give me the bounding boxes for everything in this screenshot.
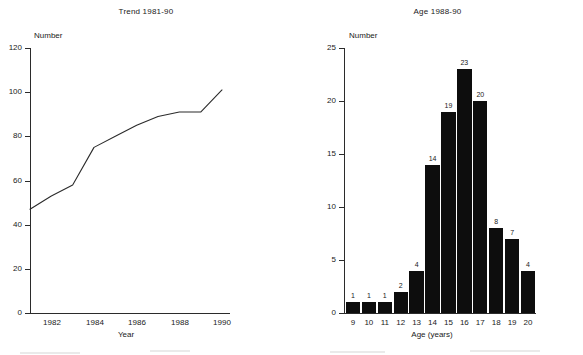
bar-age-15[interactable]	[441, 112, 455, 313]
bar-age-13[interactable]	[409, 271, 423, 313]
age-xtick-label-20: 20	[515, 318, 541, 327]
scan-artifact	[470, 350, 540, 352]
trend-chart-panel: Trend 1981-90 Number Year 0 20 40 60 80 …	[0, 0, 292, 355]
scan-artifact	[330, 351, 385, 353]
bar-age-9[interactable]	[346, 302, 360, 313]
bar-age-19[interactable]	[505, 239, 519, 313]
bar-value-label-age-18: 8	[483, 218, 509, 225]
bar-value-label-age-16: 23	[451, 59, 477, 66]
age-bars-layer: 191101112124131414191523162017818719420	[292, 0, 583, 355]
scan-artifact	[20, 352, 80, 354]
bar-age-12[interactable]	[394, 292, 408, 313]
figure-canvas: Trend 1981-90 Number Year 0 20 40 60 80 …	[0, 0, 583, 355]
bar-age-18[interactable]	[489, 228, 503, 313]
bar-value-label-age-20: 4	[515, 261, 541, 268]
scan-artifact	[150, 350, 190, 352]
bar-age-16[interactable]	[457, 69, 471, 313]
bar-age-17[interactable]	[473, 101, 487, 313]
bar-age-10[interactable]	[362, 302, 376, 313]
bar-value-label-age-19: 7	[499, 229, 525, 236]
bar-age-11[interactable]	[378, 302, 392, 313]
bar-age-20[interactable]	[521, 271, 535, 313]
trend-line-series	[0, 0, 292, 355]
bar-age-14[interactable]	[425, 165, 439, 313]
bar-value-label-age-17: 20	[467, 91, 493, 98]
age-chart-panel: Age 1988-90 Number Age (years) 0 5 10 15…	[292, 0, 583, 355]
